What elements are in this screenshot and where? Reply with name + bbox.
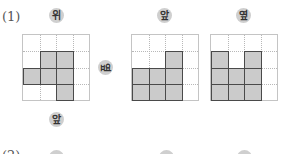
shaded-cell <box>211 51 229 68</box>
shaded-cell <box>165 51 183 68</box>
shaded-cell <box>244 51 262 68</box>
problem-number: (1) <box>2 9 20 24</box>
front-view-title: 앞 <box>157 8 172 23</box>
problem-2-badge-partial <box>237 150 252 154</box>
front-view-grid <box>131 34 199 101</box>
shaded-cell <box>40 51 58 68</box>
top-view-grid <box>22 34 90 101</box>
shaded-cell <box>165 84 183 101</box>
shaded-cell <box>244 68 262 85</box>
shaded-cell <box>56 51 74 68</box>
shaded-cell <box>211 68 229 85</box>
shaded-cell <box>165 68 183 85</box>
shaded-cell <box>132 68 150 85</box>
problem-2-badge-partial <box>159 150 174 154</box>
shaded-cell <box>228 68 246 85</box>
label-front-badge: 앞 <box>49 112 64 127</box>
problem-2-badge-partial <box>49 150 64 154</box>
shaded-cell <box>149 84 167 101</box>
shaded-cell <box>211 84 229 101</box>
label-side-badge: 옆 <box>98 60 113 75</box>
problem-2-number-partial: (2) <box>2 148 20 154</box>
label-top-badge: 위 <box>49 8 64 23</box>
side-view-title: 옆 <box>236 8 251 23</box>
shaded-cell <box>23 68 41 85</box>
shaded-cell <box>56 68 74 85</box>
shaded-cell <box>244 84 262 101</box>
side-view-grid <box>210 34 278 101</box>
shaded-cell <box>40 68 58 85</box>
shaded-cell <box>228 84 246 101</box>
shaded-cell <box>149 68 167 85</box>
shaded-cell <box>132 84 150 101</box>
shaded-cell <box>56 84 74 101</box>
